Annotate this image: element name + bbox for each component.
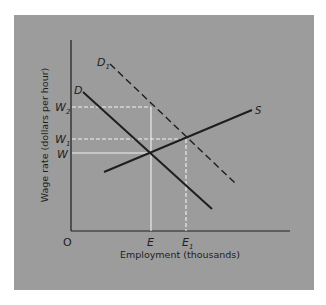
demand-curve-d [83, 92, 212, 209]
tick-w: W [57, 148, 69, 161]
tick-w1: W1 [55, 133, 70, 148]
origin-label: O [63, 236, 72, 249]
label-d1: D1 [97, 56, 110, 71]
supply-curve-s [104, 110, 252, 172]
label-d: D [74, 84, 82, 97]
tick-e: E [147, 236, 154, 249]
x-axis-title: Employment (thousands) [120, 249, 240, 260]
tick-w2: W2 [55, 101, 71, 116]
labor-market-chart: D D1 S W2 W1 W O E E1 Employment (thousa… [0, 0, 326, 305]
demand-curve-d1 [110, 64, 235, 183]
label-s: S [255, 105, 262, 116]
y-axis-title: Wage rate (dollars per hour) [39, 68, 50, 203]
